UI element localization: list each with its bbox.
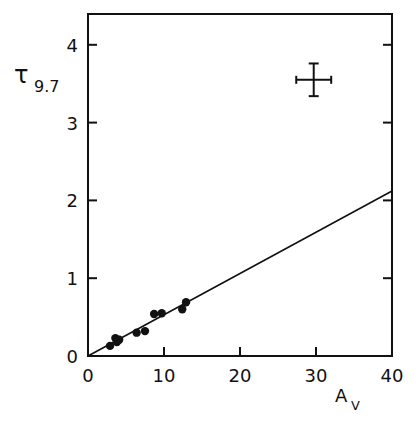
y-tick-label: 1 [67,268,78,289]
y-tick-label: 2 [67,190,78,211]
plot-border [88,14,392,356]
axis-ticks: 01020304001234 [67,35,404,386]
data-point [115,335,123,343]
error-bar-cross [296,63,331,96]
y-axis-label-subscript: 9.7 [34,77,59,96]
y-tick-label: 4 [67,35,78,56]
scatter-chart: 01020304001234 τ 9.7 A V [0,0,416,426]
plot-frame [88,14,392,356]
data-point [132,328,140,336]
data-point [150,310,158,318]
x-tick-label: 30 [305,365,328,386]
x-tick-label: 40 [381,365,404,386]
y-tick-label: 0 [67,346,78,367]
data-point [182,298,190,306]
x-tick-label: 10 [153,365,176,386]
data-point [141,327,149,335]
x-axis-label: A [335,385,348,406]
data-point [158,309,166,317]
y-axis-label: τ [14,61,28,89]
x-axis-label-subscript: V [351,398,360,413]
y-tick-label: 3 [67,113,78,134]
x-tick-label: 0 [82,365,93,386]
x-tick-label: 20 [229,365,252,386]
